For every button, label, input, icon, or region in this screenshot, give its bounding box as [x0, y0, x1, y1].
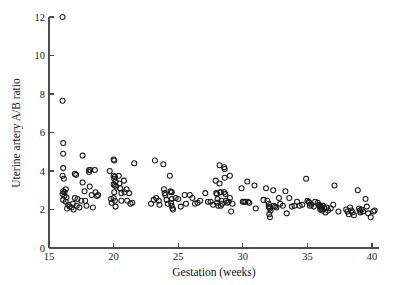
y-tick-label: 4 [40, 166, 46, 177]
data-point [80, 153, 85, 158]
x-tick-label: 30 [238, 251, 249, 262]
data-point [332, 183, 337, 188]
data-point [222, 175, 227, 180]
y-axis-title: Uterine artery A/B ratio [10, 78, 23, 188]
scatter-plot-figure: 024681012 152025303540 Gestation (weeks)… [0, 0, 394, 285]
uterine-artery-scatter-chart: 024681012 152025303540 Gestation (weeks)… [0, 0, 394, 285]
data-point [152, 158, 157, 163]
x-tick-label: 15 [44, 251, 55, 262]
x-axis-tick-labels: 152025303540 [44, 251, 378, 262]
data-point [336, 209, 341, 214]
data-point [264, 186, 269, 191]
data-point [84, 203, 89, 208]
data-point [271, 188, 276, 193]
data-point [355, 188, 360, 193]
data-point [284, 211, 289, 216]
data-point [253, 206, 258, 211]
data-point [364, 204, 369, 209]
data-point [119, 191, 124, 196]
data-point [283, 189, 288, 194]
data-point [80, 180, 85, 185]
data-point [363, 196, 368, 201]
x-tick-label: 40 [367, 251, 378, 262]
data-point [119, 198, 124, 203]
data-point [132, 161, 137, 166]
data-point [287, 195, 292, 200]
data-point [182, 193, 187, 198]
data-point [331, 202, 336, 207]
x-tick-label: 25 [173, 251, 184, 262]
data-point [276, 195, 281, 200]
data-point [61, 166, 66, 171]
data-point [239, 186, 244, 191]
y-tick-label: 10 [35, 50, 46, 61]
data-point-series [60, 15, 377, 220]
data-point [60, 98, 65, 103]
y-axis-tick-labels: 024681012 [35, 12, 46, 254]
data-point [203, 191, 208, 196]
data-point [90, 205, 95, 210]
data-point [245, 179, 250, 184]
data-point [113, 204, 118, 209]
data-point [227, 173, 232, 178]
data-point [125, 198, 130, 203]
axis-lines [49, 17, 379, 248]
data-point [121, 178, 126, 183]
x-tick-label: 35 [302, 251, 313, 262]
data-point [107, 169, 112, 174]
data-point [229, 209, 234, 214]
data-point [252, 183, 257, 188]
data-point [61, 151, 66, 156]
data-point [368, 215, 373, 220]
data-point [304, 176, 309, 181]
y-tick-label: 6 [40, 127, 45, 138]
data-point [178, 204, 183, 209]
data-point [112, 190, 117, 195]
y-tick-label: 8 [40, 89, 45, 100]
x-axis-ticks [49, 243, 372, 248]
data-point [183, 201, 188, 206]
data-point [61, 141, 66, 146]
data-point [60, 15, 65, 20]
data-point [82, 189, 87, 194]
y-axis-ticks [49, 17, 54, 248]
data-point [167, 173, 172, 178]
x-axis-title: Gestation (weeks) [172, 266, 256, 279]
y-tick-label: 2 [40, 204, 45, 215]
x-tick-label: 20 [108, 251, 119, 262]
data-point [217, 181, 222, 186]
data-point [161, 162, 166, 167]
data-point [87, 184, 92, 189]
y-tick-label: 12 [35, 12, 46, 23]
